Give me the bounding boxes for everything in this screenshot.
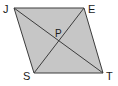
vertex-label-j: J	[3, 3, 9, 15]
vertex-label-t: T	[106, 70, 113, 82]
vertex-label-e: E	[88, 3, 95, 15]
geometry-figure-container: J E S T P	[0, 0, 118, 86]
intersection-label-p: P	[55, 28, 62, 39]
vertex-label-s: S	[23, 70, 30, 82]
geometry-diagram-svg: J E S T P	[0, 0, 118, 86]
